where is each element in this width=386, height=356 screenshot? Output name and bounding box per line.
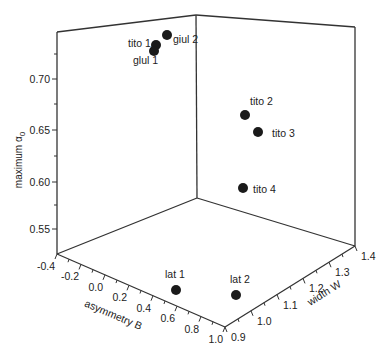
scatter-3d-chart: 0.550.600.650.70 maximum α0 -0.4-0.20.00… (0, 0, 386, 356)
x-tick-label: 0.4 (136, 302, 151, 314)
x-tick-label: 1.0 (208, 333, 223, 345)
point-label: tito 2 (250, 95, 273, 107)
point-label: lat 1 (165, 268, 185, 280)
x-tick-label: 0.6 (160, 312, 175, 324)
z-axis-ticks: 0.550.600.650.70 (30, 54, 57, 235)
z-tick-label: 0.65 (30, 124, 51, 136)
point-label: giul 2 (173, 33, 198, 45)
y-tick-label: 1.0 (257, 315, 272, 327)
z-tick-label: 0.60 (30, 176, 51, 188)
y-tick-label: 1.4 (361, 250, 376, 262)
point-label: tito 4 (253, 183, 276, 195)
x-tick-label: -0.2 (61, 270, 79, 282)
data-point (162, 30, 172, 40)
x-axis-ticks: -0.4-0.20.00.20.40.60.81.0 (37, 254, 225, 345)
z-axis-label: maximum α0 (13, 131, 27, 188)
x-tick-label: -0.4 (37, 260, 55, 272)
data-point (171, 285, 181, 295)
x-tick-label: 0.0 (88, 281, 103, 293)
point-label: tito 3 (272, 127, 295, 139)
z-tick-label: 0.55 (30, 223, 51, 235)
y-tick-label: 0.9 (231, 331, 246, 343)
x-tick-label: 0.8 (184, 323, 199, 335)
data-point (240, 110, 250, 120)
data-point (238, 183, 248, 193)
point-label: tito 1 (128, 37, 151, 49)
point-label: lat 2 (230, 273, 250, 285)
data-point (231, 290, 241, 300)
z-tick-label: 0.70 (30, 73, 51, 85)
y-tick-label: 1.1 (283, 299, 298, 311)
point-label: glul 1 (133, 54, 158, 66)
data-point (253, 127, 263, 137)
x-tick-label: 0.2 (112, 291, 127, 303)
data-points: giul 2tito 1glul 1tito 2tito 3tito 4lat … (128, 30, 295, 300)
y-tick-label: 1.3 (335, 266, 350, 278)
y-axis-ticks: 0.91.01.11.21.31.4 (225, 246, 376, 343)
